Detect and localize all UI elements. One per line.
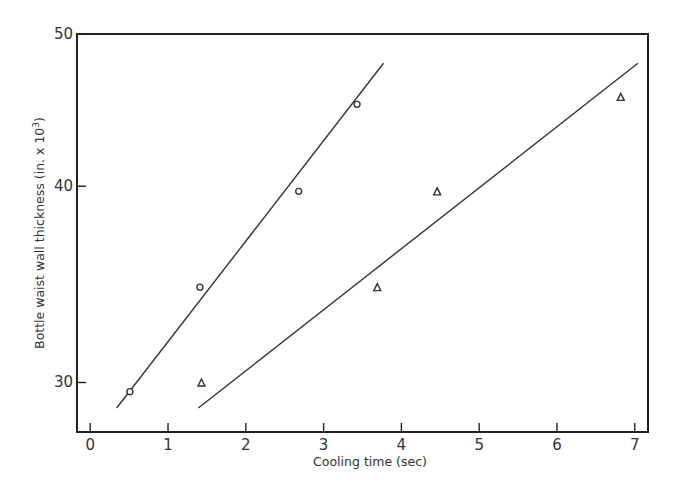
- chart: 01234567 304050 Cooling time (sec) Bottl…: [0, 0, 683, 494]
- plot-frame: [77, 34, 648, 432]
- fit-line-circles: [117, 63, 384, 408]
- data-markers: [127, 93, 624, 394]
- y-tick-label: 40: [54, 177, 73, 195]
- x-tick-label: 7: [630, 436, 640, 454]
- x-tick-label: 3: [319, 436, 329, 454]
- data-point-triangle: [434, 188, 441, 195]
- fit-lines: [117, 63, 638, 408]
- x-tick-label: 2: [241, 436, 251, 454]
- y-axis-label-suffix: ): [32, 117, 47, 122]
- x-tick-label: 4: [397, 436, 407, 454]
- y-axis-label: Bottle waist wall thickness (in. x 103): [31, 117, 47, 349]
- x-tick-label: 5: [474, 436, 484, 454]
- data-point-triangle: [198, 379, 205, 386]
- data-point-circle: [197, 284, 203, 290]
- x-axis-ticks: 01234567: [85, 423, 639, 454]
- y-axis-ticks: 304050: [54, 25, 86, 391]
- data-point-triangle: [617, 93, 624, 100]
- y-tick-label: 50: [54, 25, 73, 43]
- x-axis-label: Cooling time (sec): [313, 454, 427, 469]
- y-tick-label: 30: [54, 373, 73, 391]
- fit-line-triangles: [198, 63, 638, 408]
- x-tick-label: 6: [552, 436, 562, 454]
- x-tick-label: 0: [85, 436, 95, 454]
- y-axis-label-main: Bottle waist wall thickness (in. x 10: [32, 128, 47, 349]
- data-point-circle: [354, 101, 360, 107]
- x-tick-label: 1: [163, 436, 173, 454]
- data-point-triangle: [374, 284, 381, 291]
- data-point-circle: [127, 389, 133, 395]
- data-point-circle: [296, 188, 302, 194]
